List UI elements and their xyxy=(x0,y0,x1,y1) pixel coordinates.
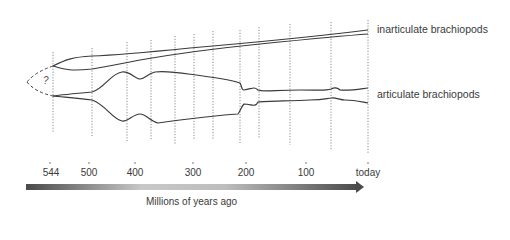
time-slice-lines xyxy=(53,20,368,153)
articulate-label: articulate brachiopods xyxy=(377,88,480,100)
inarticulate-label: inarticulate brachiopods xyxy=(377,23,488,35)
tick-today: today xyxy=(356,167,380,178)
unknown-origin-mark: ? xyxy=(43,75,49,86)
time-arrow xyxy=(26,181,364,193)
tick-100: 100 xyxy=(298,167,315,178)
time-axis-title: Millions of years ago xyxy=(146,196,237,207)
axis-ticks xyxy=(50,162,368,164)
inarticulate-lineage xyxy=(53,30,368,70)
tick-200: 200 xyxy=(238,167,255,178)
tick-300: 300 xyxy=(185,167,202,178)
tick-400: 400 xyxy=(127,167,144,178)
tick-544: 544 xyxy=(43,167,60,178)
articulate-lineage xyxy=(53,71,368,123)
unknown-origin-dashes xyxy=(27,66,53,96)
tick-500: 500 xyxy=(81,167,98,178)
